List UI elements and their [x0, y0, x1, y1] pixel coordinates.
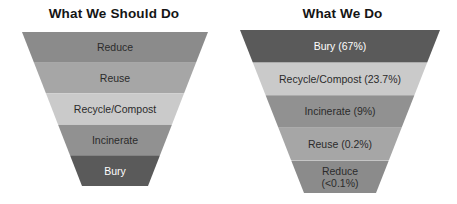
funnel-band-incinerate: Incinerate (9%): [240, 95, 440, 128]
panel-what-we-do: What We Do Bury (67%) Recycle/Compost (2…: [228, 0, 457, 204]
funnel-band-label: Reuse: [96, 72, 134, 84]
funnel-band-bury: Bury (67%): [240, 30, 440, 63]
funnel-should-do: Reduce Reuse Recycle/Compost Incinerate …: [22, 32, 208, 186]
funnel-band-reduce: Reduce (<0.1%): [240, 160, 440, 193]
funnel-band-label: Recycle/Compost (23.7%): [275, 73, 405, 85]
funnel-band-bury: Bury: [22, 155, 208, 186]
funnel-band-reuse: Reuse (0.2%): [240, 128, 440, 161]
funnel-band-incinerate: Incinerate: [22, 124, 208, 155]
funnel-band-label: Recycle/Compost: [70, 103, 160, 115]
funnel-what-we-do: Bury (67%) Recycle/Compost (23.7%) Incin…: [240, 30, 440, 193]
funnel-band-label: Reduce (<0.1%): [317, 165, 362, 189]
page-title-left: What We Should Do: [0, 6, 228, 22]
funnel-band-label: Reduce: [93, 41, 137, 53]
funnel-band-label: Incinerate (9%): [300, 105, 379, 117]
funnel-band-label: Bury (67%): [310, 40, 371, 52]
panel-what-we-should-do: What We Should Do Reduce Reuse Recycle/C…: [0, 0, 228, 204]
funnel-band-recycle-compost: Recycle/Compost: [22, 94, 208, 125]
page-title-right: What We Do: [228, 6, 457, 22]
waste-hierarchy-figure: What We Should Do Reduce Reuse Recycle/C…: [0, 0, 457, 204]
funnel-band-recycle-compost: Recycle/Compost (23.7%): [240, 63, 440, 96]
funnel-band-reduce: Reduce: [22, 32, 208, 63]
funnel-band-label: Bury: [100, 165, 130, 177]
funnel-band-label: Incinerate: [88, 134, 142, 146]
funnel-band-reuse: Reuse: [22, 63, 208, 94]
funnel-band-label: Reuse (0.2%): [304, 138, 376, 150]
